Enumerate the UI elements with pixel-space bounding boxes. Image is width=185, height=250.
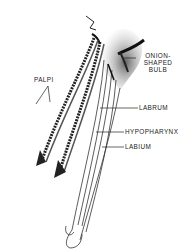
label-onion-shaped-bulb: ONION- SHAPED BULB <box>138 52 178 73</box>
label-bulb-line1: ONION- <box>138 52 178 59</box>
label-hypopharynx: HYPOPHARYNX <box>125 128 178 135</box>
mouthparts-illustration <box>0 0 185 250</box>
palpi <box>36 38 104 178</box>
label-labrum: LABRUM <box>139 104 168 111</box>
head-tip <box>86 16 100 44</box>
label-labium: LABIUM <box>125 143 151 150</box>
proboscis <box>66 60 120 248</box>
label-bulb-line2: SHAPED <box>138 59 178 66</box>
label-bulb-line3: BULB <box>138 66 178 73</box>
label-palpi: PALPI <box>34 76 54 83</box>
